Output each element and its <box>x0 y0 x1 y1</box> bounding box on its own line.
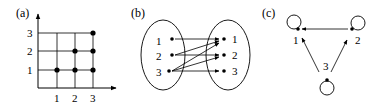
panel-c-label: (c) <box>262 6 275 20</box>
panel-c-directed-graph: (c) 1 2 3 <box>262 6 365 95</box>
x-tick-1: 1 <box>54 92 60 104</box>
self-loop-2 <box>351 16 365 30</box>
panel-b-mapping-diagram: (b) 1 2 3 1 2 3 <box>131 6 250 90</box>
y-tick-3: 3 <box>27 27 33 39</box>
x-tick-2: 2 <box>72 92 78 104</box>
panel-a-label: (a) <box>16 6 29 20</box>
left-element-1: 1 <box>156 35 162 47</box>
right-element-2: 2 <box>232 49 238 61</box>
left-element-3: 3 <box>156 66 162 78</box>
x-tick-3: 3 <box>90 92 96 104</box>
relation-diagrams: (a) 3 2 1 1 2 3 (b) <box>0 0 384 104</box>
mapping-arrows <box>172 39 219 71</box>
self-loop-1 <box>287 15 301 29</box>
node-3-label: 3 <box>323 60 329 72</box>
node-2-label: 2 <box>355 34 361 46</box>
y-tick-2: 2 <box>27 45 33 57</box>
panel-a-grid-plot: (a) 3 2 1 1 2 3 <box>16 6 116 104</box>
right-element-3: 3 <box>232 65 238 77</box>
right-element-1: 1 <box>232 33 238 45</box>
grid-lines <box>38 33 93 88</box>
left-element-2: 2 <box>156 50 162 62</box>
y-tick-1: 1 <box>27 64 33 76</box>
panel-b-label: (b) <box>131 6 145 20</box>
node-1-label: 1 <box>293 34 299 46</box>
self-loop-3 <box>320 81 334 95</box>
